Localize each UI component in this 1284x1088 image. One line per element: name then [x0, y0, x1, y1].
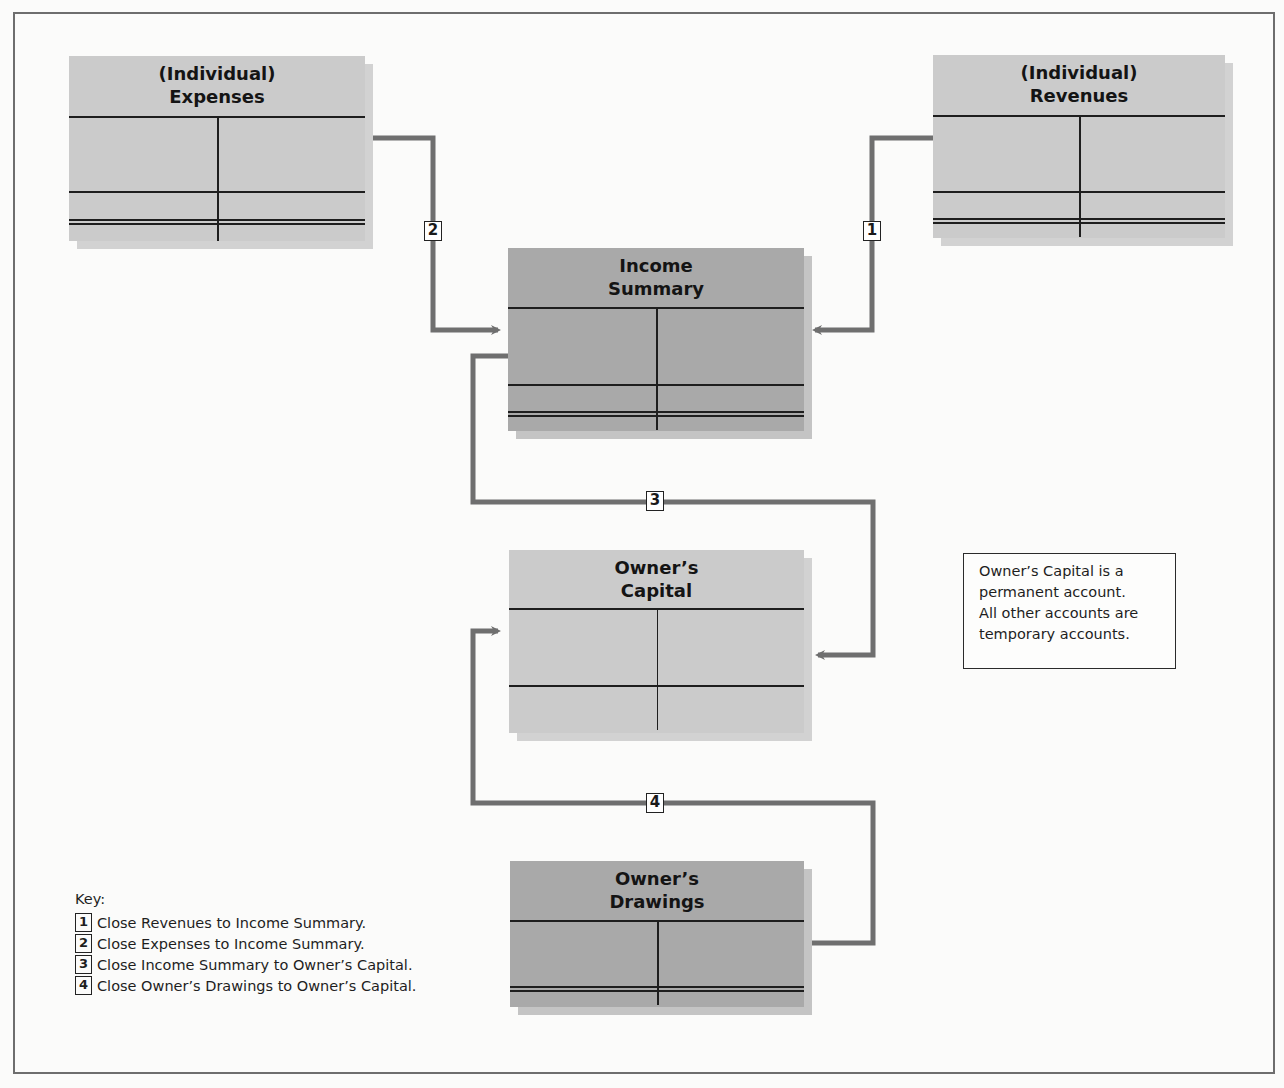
t-account-owners-capital: Owner’s Capital — [509, 550, 804, 733]
step-number-box: 3 — [75, 955, 92, 974]
t-account-income-summary: Income Summary — [508, 248, 804, 431]
t-account-expenses: (Individual) Expenses — [69, 56, 365, 241]
legend-text: Close Revenues to Income Summary. — [97, 915, 366, 931]
account-title: Income Summary — [508, 254, 804, 300]
step-4-label: 4 — [646, 793, 664, 813]
legend-item: 1 Close Revenues to Income Summary. — [75, 912, 416, 933]
legend-text: Close Owner’s Drawings to Owner’s Capita… — [97, 978, 416, 994]
legend-item: 3 Close Income Summary to Owner’s Capita… — [75, 954, 416, 975]
step-3-label: 3 — [646, 491, 664, 511]
step-number-box: 1 — [75, 913, 92, 932]
legend-key: Key: 1 Close Revenues to Income Summary.… — [75, 888, 416, 996]
legend-text: Close Income Summary to Owner’s Capital. — [97, 957, 413, 973]
account-title: (Individual) Revenues — [933, 61, 1225, 107]
account-type-note: Owner’s Capital is a permanent account. … — [963, 553, 1176, 669]
step-number-box: 4 — [75, 976, 92, 995]
step-number-box: 2 — [75, 934, 92, 953]
account-title: (Individual) Expenses — [69, 62, 365, 108]
legend-item: 4 Close Owner’s Drawings to Owner’s Capi… — [75, 975, 416, 996]
legend-item: 2 Close Expenses to Income Summary. — [75, 933, 416, 954]
legend-title: Key: — [75, 888, 416, 910]
t-account-owners-drawings: Owner’s Drawings — [510, 861, 804, 1007]
step-2-label: 2 — [424, 221, 442, 241]
legend-text: Close Expenses to Income Summary. — [97, 936, 365, 952]
account-title: Owner’s Drawings — [510, 867, 804, 913]
t-account-revenues: (Individual) Revenues — [933, 55, 1225, 238]
account-title: Owner’s Capital — [509, 556, 804, 602]
step-1-label: 1 — [863, 221, 881, 241]
